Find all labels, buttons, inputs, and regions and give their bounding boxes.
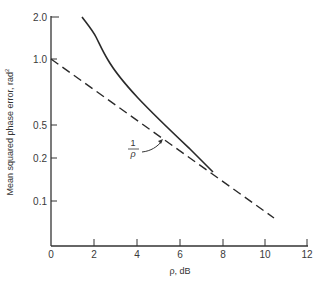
- annotation-arrow: [142, 141, 162, 152]
- svg-text:1.0: 1.0: [33, 54, 47, 65]
- svg-text:1: 1: [130, 138, 135, 148]
- y-ticks: [51, 17, 59, 201]
- svg-text:4: 4: [134, 249, 140, 260]
- y-axis-label: Mean squared phase error, rad2: [4, 68, 15, 196]
- dashed-line-1-over-rho: [51, 59, 274, 218]
- svg-text:12: 12: [301, 249, 313, 260]
- svg-text:Mean squared phase error, rad2: Mean squared phase error, rad2: [4, 68, 15, 196]
- arrowhead-icon: [158, 139, 163, 144]
- svg-text:0: 0: [48, 249, 54, 260]
- svg-text:0.1: 0.1: [33, 196, 47, 207]
- svg-text:ρ: ρ: [129, 149, 135, 159]
- svg-text:0.2: 0.2: [33, 153, 47, 164]
- chart: 2.0 1.0 0.5 0.2 0.1 0 2 4 6 8 10 12 ρ, d…: [0, 0, 322, 283]
- x-axis-label: ρ, dB: [169, 266, 190, 276]
- annotation-1-over-rho: 1 ρ: [128, 138, 163, 159]
- x-ticks: [94, 239, 307, 246]
- y-tick-labels: 2.0 1.0 0.5 0.2 0.1: [33, 12, 47, 207]
- svg-text:2.0: 2.0: [33, 12, 47, 23]
- svg-text:2: 2: [91, 249, 97, 260]
- svg-text:10: 10: [259, 249, 271, 260]
- svg-text:0.5: 0.5: [33, 120, 47, 131]
- svg-text:6: 6: [177, 249, 183, 260]
- svg-text:8: 8: [220, 249, 226, 260]
- x-tick-labels: 0 2 4 6 8 10 12: [48, 249, 313, 260]
